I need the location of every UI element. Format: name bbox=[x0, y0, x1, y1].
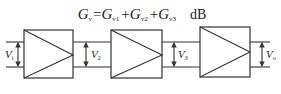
gain-equation: Gv=Gv1+Gv2+Gv3dB bbox=[78, 6, 207, 23]
voltage-v2: V2 bbox=[86, 43, 101, 66]
v3-label: V3 bbox=[178, 48, 188, 61]
amplifier-stage-3 bbox=[200, 27, 250, 77]
vo-label: Vo bbox=[266, 48, 276, 61]
cascaded-amplifier-diagram: Gv=Gv1+Gv2+Gv3dB Vi V2 V3 bbox=[0, 0, 281, 94]
amplifier-stage-1 bbox=[24, 30, 73, 78]
voltage-v3: V3 bbox=[174, 43, 188, 66]
eq-equals: = bbox=[93, 6, 101, 22]
voltage-vo: Vo bbox=[262, 43, 276, 66]
eq-lhs-sub: v bbox=[89, 15, 93, 23]
eq-lhs: G bbox=[78, 6, 89, 22]
eq-term-3-sub: v3 bbox=[169, 15, 177, 23]
eq-unit: dB bbox=[190, 7, 206, 22]
amplifier-stage-2 bbox=[111, 30, 162, 78]
eq-term-2: G bbox=[130, 6, 141, 22]
eq-term-2-sub: v2 bbox=[141, 15, 149, 23]
v2-label: V2 bbox=[91, 48, 101, 61]
eq-plus-2: + bbox=[150, 6, 158, 22]
eq-plus-1: + bbox=[121, 6, 129, 22]
vi-label: Vi bbox=[5, 48, 14, 61]
voltage-vi: Vi bbox=[5, 43, 18, 66]
stage-2-box bbox=[111, 30, 162, 78]
eq-term-3: G bbox=[158, 6, 169, 22]
stage-1-box bbox=[24, 30, 73, 78]
stage-3-box bbox=[200, 27, 250, 77]
eq-term-1-sub: v1 bbox=[112, 15, 120, 23]
eq-term-1: G bbox=[102, 6, 113, 22]
